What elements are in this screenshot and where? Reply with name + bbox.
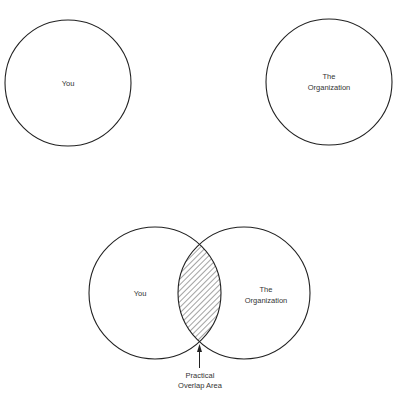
organization-label-line1-separate: The bbox=[323, 72, 336, 81]
organization-label-line1-overlap: The bbox=[260, 285, 273, 294]
overlap-label-line1: Practical bbox=[186, 371, 215, 380]
you-label-separate: You bbox=[62, 79, 75, 88]
organization-label-line2-separate: Organization bbox=[308, 83, 351, 92]
organization-circle-separate bbox=[266, 19, 392, 145]
separate-circles-group: You The Organization bbox=[5, 19, 392, 146]
venn-diagram: You The Organization You The Organizatio… bbox=[0, 0, 395, 399]
arrow-up-icon bbox=[197, 344, 202, 352]
overlapping-circles-group: You The Organization Practical Overlap A… bbox=[89, 227, 310, 390]
overlap-area-hatched bbox=[178, 227, 310, 359]
organization-label-line2-overlap: Organization bbox=[245, 296, 288, 305]
you-label-overlap: You bbox=[134, 289, 147, 298]
overlap-label-line2: Overlap Area bbox=[178, 381, 223, 390]
